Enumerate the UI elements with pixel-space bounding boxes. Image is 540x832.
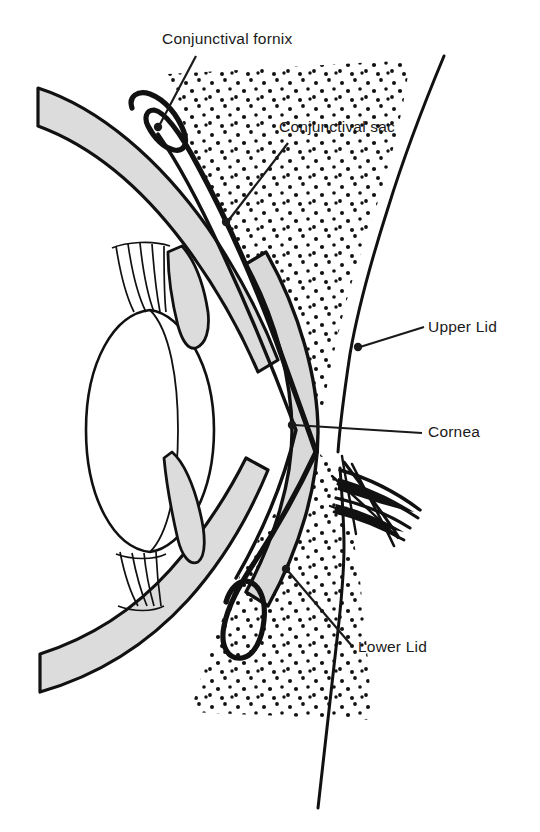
- leader-dot-upper-lid: [354, 343, 362, 351]
- zonules-upper: [112, 242, 170, 312]
- label-upper-lid-text: Upper Lid: [428, 318, 497, 335]
- leader-dot-conjunctival-fornix: [154, 123, 162, 131]
- label-conjunctival-fornix-text: Conjunctival fornix: [162, 30, 292, 47]
- label-upper-lid: Upper Lid: [354, 318, 497, 351]
- eye-anatomy-figure: Conjunctival fornix Conjunctival sac Upp…: [0, 0, 540, 832]
- label-conjunctival-sac-text: Conjunctival sac: [279, 118, 395, 135]
- leader-dot-conjunctival-sac: [222, 218, 230, 226]
- label-lower-lid-text: Lower Lid: [358, 638, 427, 655]
- leader-dot-cornea: [288, 421, 296, 429]
- label-cornea-text: Cornea: [428, 423, 480, 440]
- leader-dot-lower-lid: [282, 565, 290, 573]
- eye-sagittal-section-diagram: Conjunctival fornix Conjunctival sac Upp…: [0, 0, 540, 832]
- leader-line-upper-lid: [360, 327, 424, 347]
